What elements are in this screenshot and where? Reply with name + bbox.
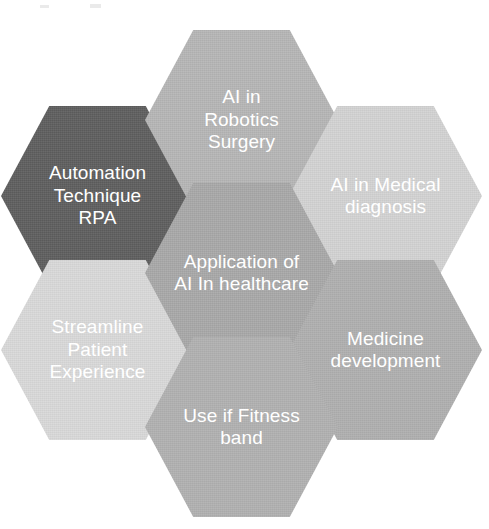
hex-label-streamline-patient-experience: Streamline Patient Experience [49,316,145,383]
hex-label-automation-technique-rpa: Automation Technique RPA [49,162,146,229]
hex-label-ai-medical-diagnosis: AI in Medical diagnosis [330,174,440,219]
hex-label-center: Application of AI In healthcare [174,251,309,296]
scan-artifact [40,5,49,8]
hex-label-ai-robotics-surgery: AI in Robotics Surgery [204,86,279,153]
hex-label-medicine-development: Medicine development [331,328,441,373]
hex-label-use-if-fitness-band: Use if Fitness band [183,405,300,450]
hexagon-diagram: Automation Technique RPA AI in Robotics … [0,0,489,529]
scan-artifact [90,4,101,8]
